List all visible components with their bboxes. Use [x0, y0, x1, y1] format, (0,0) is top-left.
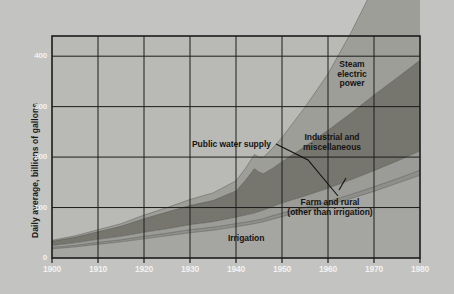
- figure-card: Daily average, billions of gallons 01002…: [0, 0, 454, 294]
- y-tick-label-400: 400: [25, 51, 47, 60]
- water-use-area-chart: Daily average, billions of gallons 01002…: [0, 0, 454, 294]
- x-tick-label-1920: 1920: [129, 264, 159, 274]
- y-tick-label-200: 200: [25, 152, 47, 161]
- y-tick-label-100: 100: [25, 203, 47, 212]
- x-tick-label-1960: 1960: [313, 264, 343, 274]
- x-tick-label-1900: 1900: [37, 264, 67, 274]
- annotation-farm-and-rural: Farm and rural (other than irrigation): [287, 198, 372, 217]
- annotation-steam-electric-power: Steam electric power: [337, 60, 366, 89]
- annotation-public-water-supply: Public water supply: [192, 140, 271, 150]
- annotation-industrial-and-miscellaneous: Industrial and miscellaneous: [303, 133, 361, 152]
- x-tick-label-1940: 1940: [221, 264, 251, 274]
- x-tick-label-1980: 1980: [405, 264, 435, 274]
- annotation-irrigation: Irrigation: [228, 234, 264, 244]
- x-tick-label-1930: 1930: [175, 264, 205, 274]
- y-tick-label-300: 300: [25, 102, 47, 111]
- y-tick-label-0: 0: [25, 253, 47, 262]
- y-axis-title: Daily average, billions of gallons: [30, 103, 40, 238]
- x-tick-label-1950: 1950: [267, 264, 297, 274]
- x-tick-label-1970: 1970: [359, 264, 389, 274]
- x-tick-label-1910: 1910: [83, 264, 113, 274]
